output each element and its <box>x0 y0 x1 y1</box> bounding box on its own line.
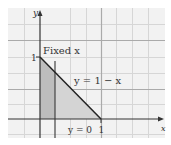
line-equation-label: y = 1 − x <box>73 75 121 86</box>
y-axis-label: y <box>32 8 39 18</box>
x-tick-label: 1 <box>99 125 105 135</box>
y-tick-label: 1 <box>31 53 37 63</box>
bottom-equation-label: y = 0 <box>67 125 92 135</box>
x-axis-label: x <box>161 124 166 133</box>
region-diagram: y x 1 1 Fixed x y = 1 − x y = 0 <box>0 0 171 145</box>
fixed-x-label: Fixed x <box>43 45 80 56</box>
